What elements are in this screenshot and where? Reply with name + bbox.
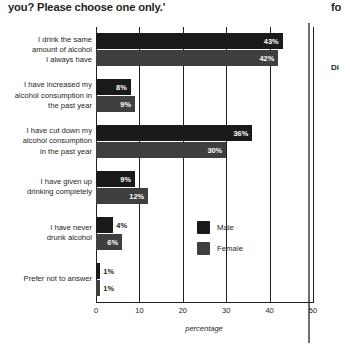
bar-male-1: 8% — [96, 79, 131, 95]
bar-female-0: 42% — [96, 50, 278, 66]
bar-value-label: 4% — [116, 220, 127, 229]
category-label-line: drunk alcohol — [0, 233, 92, 243]
legend-swatch-male — [197, 221, 210, 234]
x-tick-20: 20 — [179, 306, 187, 315]
bar-male-3: 9% — [96, 171, 135, 187]
category-label-line: I drink the same — [0, 35, 92, 45]
bar-value-label: 30% — [207, 146, 222, 155]
bar-value-label: 42% — [259, 54, 274, 63]
grouped-bar-chart: 01020304050 I drink the sameamount of al… — [0, 0, 350, 346]
x-tick-50: 50 — [309, 306, 317, 315]
legend-label-female: Female — [217, 244, 243, 253]
category-label-line: Prefer not to answer — [0, 274, 92, 284]
category-label-0: I drink the sameamount of alcoholI alway… — [0, 35, 92, 66]
x-tick-0: 0 — [94, 306, 98, 315]
category-label-line: I always have — [0, 55, 92, 65]
bar-value-label: 8% — [116, 83, 127, 92]
bar-male-5: 1% — [96, 263, 100, 279]
category-label-line: I have given up — [0, 177, 92, 187]
category-label-line: I have cut down my — [0, 126, 92, 136]
bar-female-2: 30% — [96, 142, 226, 158]
bar-value-label: 43% — [264, 37, 279, 46]
x-axis-line — [96, 302, 314, 303]
category-label-line: alcohol consumption — [0, 136, 92, 146]
x-tick-30: 30 — [222, 306, 230, 315]
bar-female-4: 6% — [96, 234, 122, 250]
bar-male-2: 36% — [96, 125, 252, 141]
category-label-line: the past year — [0, 101, 92, 111]
gridline-40 — [270, 27, 271, 302]
bar-male-0: 43% — [96, 33, 283, 49]
bar-female-1: 9% — [96, 96, 135, 112]
category-label-line: I have increased my — [0, 80, 92, 90]
category-label-5: Prefer not to answer — [0, 274, 92, 284]
legend-item-female[interactable]: Female — [197, 240, 243, 257]
category-label-line: I have never — [0, 223, 92, 233]
category-label-1: I have increased myalcohol consumption i… — [0, 80, 92, 111]
category-label-3: I have given updrinking completely — [0, 177, 92, 197]
x-axis-title: percentage — [185, 324, 223, 333]
x-tick-10: 10 — [135, 306, 143, 315]
bar-value-label: 6% — [107, 237, 118, 246]
category-label-line: drinking completely — [0, 187, 92, 197]
legend-label-male: Male — [217, 223, 234, 232]
bar-value-label: 9% — [120, 174, 131, 183]
chart-legend: MaleFemale — [197, 219, 243, 261]
bar-female-5: 1% — [96, 280, 100, 296]
bar-value-label: 9% — [120, 100, 131, 109]
bar-female-3: 12% — [96, 188, 148, 204]
category-label-line: in the past year — [0, 147, 92, 157]
category-label-2: I have cut down myalcohol consumptionin … — [0, 126, 92, 157]
gridline-10 — [139, 27, 140, 302]
legend-item-male[interactable]: Male — [197, 219, 243, 236]
y-axis-line — [96, 27, 97, 302]
legend-swatch-female — [197, 242, 210, 255]
x-tick-40: 40 — [265, 306, 273, 315]
gridline-20 — [183, 27, 184, 302]
category-label-4: I have neverdrunk alcohol — [0, 223, 92, 243]
category-label-line: amount of alcohol — [0, 45, 92, 55]
bar-value-label: 1% — [103, 283, 114, 292]
gridline-50 — [313, 27, 314, 302]
bar-value-label: 1% — [103, 266, 114, 275]
category-label-line: alcohol consumption in — [0, 91, 92, 101]
bar-value-label: 36% — [233, 129, 248, 138]
bar-male-4: 4% — [96, 217, 113, 233]
bar-value-label: 12% — [129, 191, 144, 200]
